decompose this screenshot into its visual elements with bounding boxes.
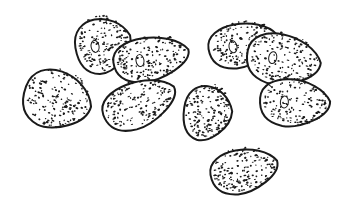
seeds-drawing: [0, 0, 349, 209]
seed: [15, 59, 100, 139]
seed: [207, 142, 282, 199]
seed-illustration: [0, 0, 349, 209]
seed: [258, 75, 332, 130]
seed: [180, 80, 236, 144]
